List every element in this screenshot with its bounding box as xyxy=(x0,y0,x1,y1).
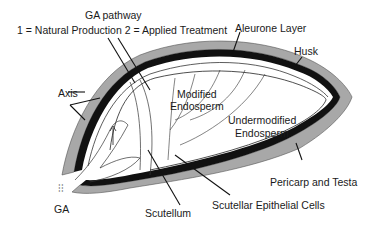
label-ga: GA xyxy=(54,203,69,215)
label-husk: Husk xyxy=(294,45,318,57)
subtitle-legend: 1 = Natural Production 2 = Applied Treat… xyxy=(17,24,227,36)
title-ga-pathway: GA pathway xyxy=(85,9,142,21)
label-aleurone-layer: Aleurone Layer xyxy=(235,22,306,34)
label-axis: Axis xyxy=(58,87,78,99)
ga-molecule-icon: ⫶⫶ xyxy=(58,183,64,194)
label-modified: Modified xyxy=(177,88,217,100)
label-scutellar-epithelial: Scutellar Epithelial Cells xyxy=(212,199,325,211)
scutellum-shape xyxy=(130,80,152,175)
label-scutellum: Scutellum xyxy=(145,207,191,219)
label-pericarp-testa: Pericarp and Testa xyxy=(270,176,357,188)
label-undermodified-endosperm: Endosperm xyxy=(235,127,289,139)
label-modified-endosperm: Endosperm xyxy=(170,100,224,112)
label-undermodified: Undermodified xyxy=(228,114,296,126)
pericarp-testa-layer xyxy=(74,49,340,185)
